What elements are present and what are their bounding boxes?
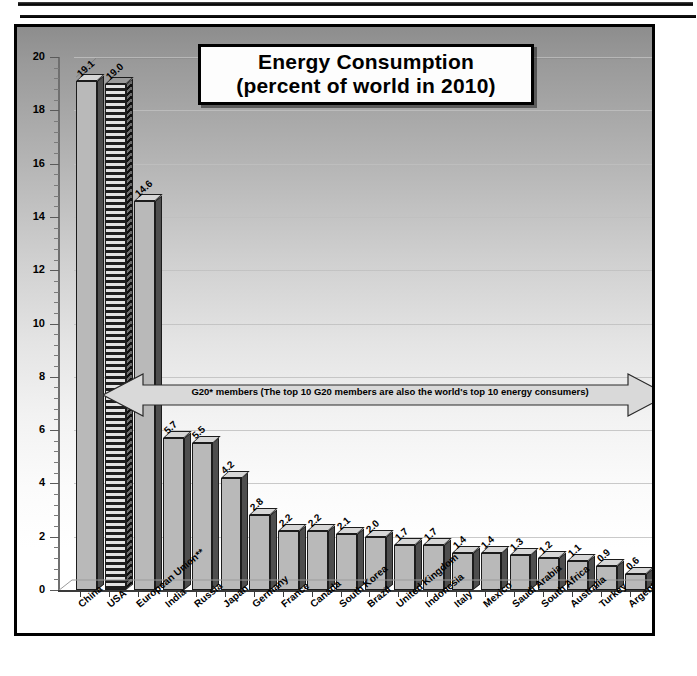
scan-top-bands <box>0 0 697 22</box>
bar <box>76 81 97 590</box>
bar <box>192 443 213 590</box>
y-tick-minor <box>54 174 59 175</box>
bar <box>307 531 328 590</box>
y-tick-minor <box>54 142 59 143</box>
y-tick-minor <box>54 355 59 356</box>
y-tick-minor <box>54 249 59 250</box>
bar-front-face <box>76 81 97 590</box>
y-tick-label: 2 <box>19 530 45 542</box>
y-tick-major <box>50 537 59 538</box>
y-tick-minor <box>54 313 59 314</box>
bar <box>105 84 126 590</box>
y-tick-minor <box>54 398 59 399</box>
y-axis-title: percent of world <box>14 247 17 317</box>
y-tick-minor <box>54 238 59 239</box>
y-tick-minor <box>54 281 59 282</box>
y-tick-minor <box>54 579 59 580</box>
chart-title-line1: Energy Consumption <box>209 50 523 74</box>
y-tick-minor <box>54 494 59 495</box>
gridline <box>74 164 652 165</box>
y-tick-minor <box>54 569 59 570</box>
y-tick-label: 8 <box>19 370 45 382</box>
y-tick-major <box>50 430 59 431</box>
y-tick-major <box>50 377 59 378</box>
bar-side-face <box>473 547 480 590</box>
y-tick-minor <box>54 526 59 527</box>
y-tick-minor <box>54 228 59 229</box>
y-tick-minor <box>54 68 59 69</box>
y-tick-minor <box>54 292 59 293</box>
bar-side-face <box>386 531 393 590</box>
y-tick-major <box>50 57 59 58</box>
y-tick-minor <box>54 100 59 101</box>
y-tick-label: 18 <box>19 103 45 115</box>
y-tick-minor <box>54 196 59 197</box>
y-tick-minor <box>54 547 59 548</box>
y-tick-minor <box>54 409 59 410</box>
y-tick-major <box>50 324 59 325</box>
y-tick-major <box>50 217 59 218</box>
chart-title-line2: (percent of world in 2010) <box>209 74 523 98</box>
y-tick-minor <box>54 185 59 186</box>
y-tick-minor <box>54 462 59 463</box>
bar-front-face <box>221 478 242 590</box>
bar-side-face <box>212 438 219 590</box>
bar <box>249 515 270 590</box>
y-tick-label: 20 <box>19 50 45 62</box>
y-tick-label: 12 <box>19 263 45 275</box>
bar-side-face <box>241 473 248 590</box>
y-tick-minor <box>54 121 59 122</box>
y-tick-minor <box>54 132 59 133</box>
plot-area: 19.119.014.65.75.54.22.82.22.22.12.01.71… <box>74 57 652 590</box>
y-tick-minor <box>54 366 59 367</box>
scan-band-upper <box>18 2 693 6</box>
y-tick-major <box>50 164 59 165</box>
bar-front-face <box>192 443 213 590</box>
y-tick-minor <box>54 387 59 388</box>
g20-annotation-text: G20* members (The top 10 G20 members are… <box>155 386 625 397</box>
y-tick-major <box>50 270 59 271</box>
bar <box>394 545 415 590</box>
y-tick-label: 6 <box>19 423 45 435</box>
bar <box>481 553 502 590</box>
bar-front-face <box>481 553 502 590</box>
y-tick-minor <box>54 515 59 516</box>
y-tick-minor <box>54 260 59 261</box>
y-tick-label: 16 <box>19 157 45 169</box>
y-tick-minor <box>54 153 59 154</box>
bar-side-face <box>97 76 104 590</box>
bar-front-face <box>105 84 126 590</box>
y-tick-minor <box>54 419 59 420</box>
bar <box>221 478 242 590</box>
y-tick-minor <box>54 441 59 442</box>
scan-band-lower <box>20 15 696 18</box>
y-tick-minor <box>54 78 59 79</box>
g20-annotation: G20* members (The top 10 G20 members are… <box>103 372 655 418</box>
y-tick-label: 14 <box>19 210 45 222</box>
y-tick-minor <box>54 345 59 346</box>
y-tick-minor <box>54 451 59 452</box>
y-tick-label: 0 <box>19 583 45 595</box>
chart-frame: 19.119.014.65.75.54.22.82.22.22.12.01.71… <box>14 24 655 636</box>
y-tick-label: 10 <box>19 317 45 329</box>
y-tick-minor <box>54 558 59 559</box>
y-tick-major <box>50 110 59 111</box>
y-tick-label: 4 <box>19 476 45 488</box>
bar-front-face <box>394 545 415 590</box>
y-tick-minor <box>54 334 59 335</box>
bar-side-face <box>126 78 133 590</box>
y-tick-major <box>50 483 59 484</box>
bar-front-face <box>249 515 270 590</box>
chart-title-box: Energy Consumption (percent of world in … <box>198 44 534 105</box>
y-tick-minor <box>54 473 59 474</box>
gridline <box>74 110 652 111</box>
bar-front-face <box>307 531 328 590</box>
y-tick-minor <box>54 505 59 506</box>
y-tick-minor <box>54 89 59 90</box>
y-tick-minor <box>54 302 59 303</box>
y-tick-minor <box>54 206 59 207</box>
